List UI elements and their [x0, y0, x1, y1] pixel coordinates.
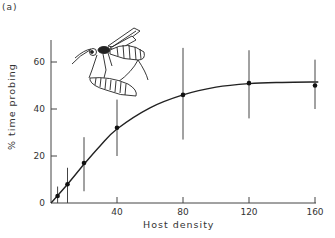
point-marker — [82, 161, 87, 166]
point-marker — [313, 83, 318, 88]
data-point — [55, 187, 60, 203]
y-tick-20: 20 — [34, 151, 46, 161]
fitted-curve — [51, 82, 318, 203]
y-tick-60: 60 — [34, 57, 46, 67]
y-axis-title: % time probing — [6, 63, 17, 150]
x-axis-title: Host density — [143, 219, 214, 230]
point-marker — [181, 93, 186, 98]
x-tick-80: 80 — [177, 207, 189, 217]
point-marker — [55, 194, 60, 199]
x-tick-labels: 40 80 120 160 — [111, 207, 324, 217]
x-tick-160: 160 — [306, 207, 323, 217]
wasp-larva-illustration — [72, 28, 148, 96]
data-point — [247, 50, 252, 118]
chart: 0 20 40 60 40 80 120 160 Host density % … — [0, 0, 335, 238]
y-tick-labels: 0 20 40 60 — [34, 57, 46, 208]
data-point — [313, 60, 318, 109]
data-point — [181, 48, 186, 140]
point-marker — [115, 126, 120, 131]
point-marker — [65, 182, 70, 187]
point-marker — [247, 81, 252, 86]
y-tick-40: 40 — [34, 104, 46, 114]
data-point — [115, 100, 120, 156]
data-point — [82, 137, 87, 191]
y-tick-0: 0 — [39, 198, 45, 208]
x-tick-40: 40 — [111, 207, 123, 217]
x-tick-120: 120 — [240, 207, 257, 217]
data-point — [65, 168, 70, 203]
